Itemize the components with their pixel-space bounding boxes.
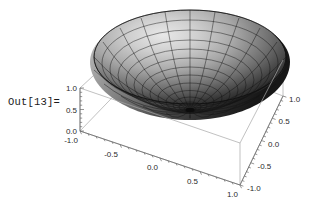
x-tick-label: 1.0 xyxy=(227,190,239,199)
paraboloid-surface xyxy=(90,10,290,120)
y-tick-label: 0.0 xyxy=(268,140,280,149)
y-tick-label: 0.5 xyxy=(279,117,291,126)
surface-vertex xyxy=(186,108,195,112)
x-tick-label: -1.0 xyxy=(64,136,78,145)
notebook-output-cell: Out[13]= xyxy=(0,0,318,211)
axis-y: 1.0 0.5 0.0 -0.5 -1.0 xyxy=(240,95,301,193)
z-tick-label: 0.5 xyxy=(66,106,78,115)
z-tick-label: 0.0 xyxy=(66,127,78,136)
y-tick-label: -0.5 xyxy=(258,162,272,171)
output-cell-label: Out[13]= xyxy=(8,96,60,108)
y-tick-label: -1.0 xyxy=(247,184,261,193)
plot-svg: 1.0 0.5 0.0 xyxy=(60,0,318,211)
x-tick-label: 0.0 xyxy=(147,163,159,172)
y-tick-label: 1.0 xyxy=(289,95,301,104)
z-tick-label: 1.0 xyxy=(66,84,78,93)
plot-3d-paraboloid[interactable]: 1.0 0.5 0.0 xyxy=(60,0,318,211)
x-tick-label: 0.5 xyxy=(187,177,199,186)
axis-z: 1.0 0.5 0.0 xyxy=(66,84,84,136)
axis-x: -1.0 -0.5 0.0 0.5 1.0 xyxy=(64,131,241,199)
x-tick-label: -0.5 xyxy=(104,150,118,159)
